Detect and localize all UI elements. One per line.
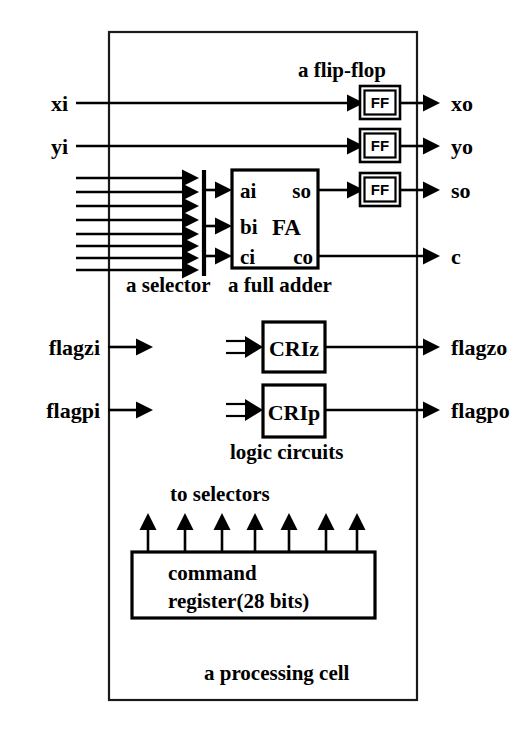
flipflop-y-label: FF: [371, 137, 389, 154]
processing-cell-caption: a processing cell: [204, 661, 350, 685]
processing-cell-diagram: FF FF FF: [0, 0, 527, 737]
output-label-flagzo: flagzo: [451, 335, 507, 360]
full-adder-caption: a full adder: [228, 273, 332, 297]
fa-input-ci-label: ci: [240, 245, 255, 269]
diagram-canvas: FF FF FF: [0, 0, 527, 737]
command-register-line1: command: [168, 561, 257, 585]
selector-caption: a selector: [126, 273, 211, 297]
output-label-flagpo: flagpo: [451, 398, 510, 423]
input-label-xi: xi: [51, 91, 68, 116]
flipflop-s: FF: [360, 173, 400, 206]
input-label-yi: yi: [51, 134, 68, 159]
logic-block-crip: CRIp: [263, 385, 325, 437]
fa-output-co-label: co: [293, 245, 313, 269]
full-adder-name-label: FA: [272, 215, 301, 240]
flipflop-s-label: FF: [371, 181, 389, 198]
to-selectors-caption: to selectors: [170, 482, 270, 506]
command-register-line2: register(28 bits): [168, 589, 309, 613]
fa-output-so-label: so: [292, 179, 311, 203]
output-label-so: so: [451, 178, 471, 203]
criz-label: CRIz: [269, 336, 319, 361]
flipflop-x: FF: [360, 86, 400, 119]
command-register-block: command register(28 bits): [132, 552, 375, 618]
full-adder-block: ai bi ci so co FA: [232, 170, 318, 269]
fa-input-ai-label: ai: [240, 179, 257, 203]
crip-label: CRIp: [268, 400, 321, 425]
input-label-flagpi: flagpi: [46, 398, 100, 423]
output-label-xo: xo: [451, 91, 473, 116]
output-label-yo: yo: [451, 134, 473, 159]
flipflop-y: FF: [360, 129, 400, 162]
flipflop-caption: a flip-flop: [298, 58, 386, 82]
input-label-flagzi: flagzi: [49, 335, 100, 360]
output-label-c: c: [451, 244, 461, 269]
fa-input-bi-label: bi: [240, 215, 258, 239]
logic-circuits-caption: logic circuits: [230, 440, 343, 464]
flipflop-x-label: FF: [371, 94, 389, 111]
logic-block-criz: CRIz: [263, 322, 325, 372]
